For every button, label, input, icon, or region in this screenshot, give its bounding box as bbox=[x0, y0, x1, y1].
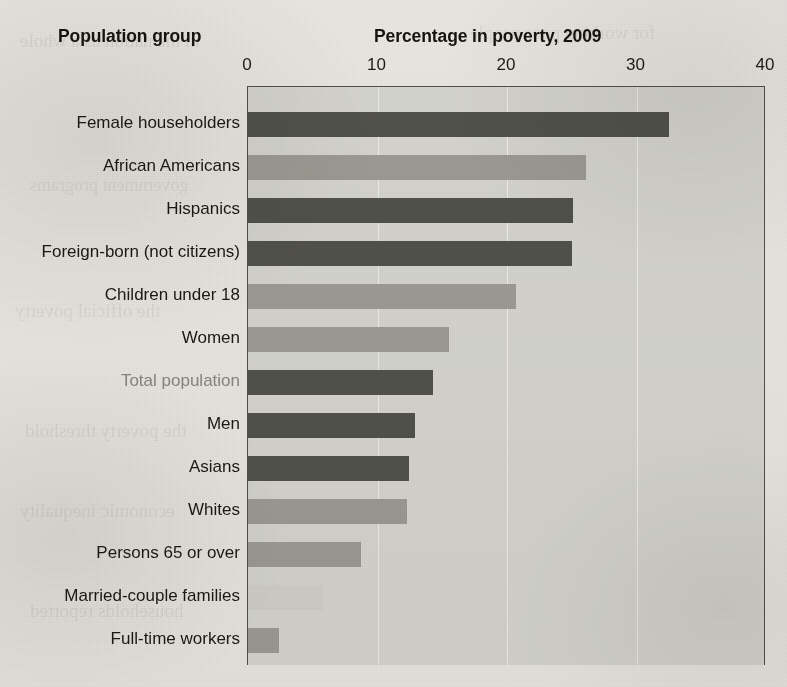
category-label: Children under 18 bbox=[7, 285, 247, 305]
category-label-column: Female householdersAfrican AmericansHisp… bbox=[0, 86, 247, 665]
bar bbox=[248, 413, 415, 438]
x-tick-40: 40 bbox=[745, 55, 785, 75]
category-label: Persons 65 or over bbox=[7, 543, 247, 563]
gridline-30 bbox=[637, 87, 638, 665]
category-label: Whites bbox=[7, 500, 247, 520]
category-label: African Americans bbox=[7, 156, 247, 176]
x-tick-20: 20 bbox=[486, 55, 526, 75]
column-header-population-group: Population group bbox=[58, 26, 201, 47]
chart-title: Percentage in poverty, 2009 bbox=[374, 26, 602, 47]
bar bbox=[248, 456, 409, 481]
bar bbox=[248, 327, 449, 352]
bar bbox=[248, 284, 516, 309]
category-label: Asians bbox=[7, 457, 247, 477]
category-label: Foreign-born (not citizens) bbox=[7, 242, 247, 262]
bar bbox=[248, 241, 572, 266]
bar bbox=[248, 112, 669, 137]
bar bbox=[248, 370, 433, 395]
x-tick-0: 0 bbox=[227, 55, 267, 75]
bar bbox=[248, 499, 407, 524]
category-label: Women bbox=[7, 328, 247, 348]
plot-area bbox=[247, 86, 765, 665]
bar bbox=[248, 628, 279, 653]
category-label: Female householders bbox=[7, 113, 247, 133]
bar bbox=[248, 542, 361, 567]
category-label: Hispanics bbox=[7, 199, 247, 219]
poverty-bar-chart: Population group Percentage in poverty, … bbox=[0, 0, 787, 687]
category-label: Married-couple families bbox=[7, 586, 247, 606]
x-tick-30: 30 bbox=[616, 55, 656, 75]
category-label: Total population bbox=[7, 371, 247, 391]
bar bbox=[248, 585, 323, 610]
category-label: Men bbox=[7, 414, 247, 434]
bar bbox=[248, 198, 573, 223]
category-label: Full-time workers bbox=[7, 629, 247, 649]
x-tick-10: 10 bbox=[357, 55, 397, 75]
bar bbox=[248, 155, 586, 180]
